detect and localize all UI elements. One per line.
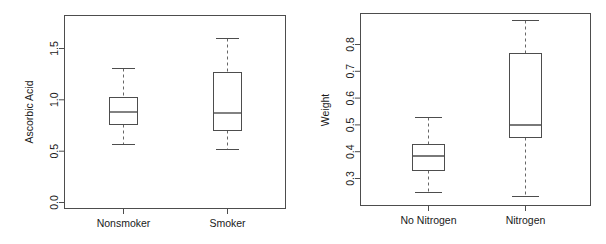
boxplot-no-nitrogen	[413, 118, 445, 193]
box-iqr	[413, 145, 445, 171]
ascorbic-acid-chart: 1.5 1.0 0.5 0.0 Ascorbic Acid	[0, 0, 303, 244]
x-label-no-nitrogen: No Nitrogen	[400, 214, 456, 226]
x-label-nonsmoker: Nonsmoker	[97, 217, 151, 229]
y-tick-label-0.8: 0.8	[344, 37, 356, 52]
box-iqr	[110, 98, 138, 125]
y-tick-label-0.6: 0.6	[344, 91, 356, 106]
y-tick-label-1.5: 1.5	[48, 41, 60, 56]
weight-chart: 0.8 0.7 0.6 0.5 0.4 0.3 Weight	[303, 0, 606, 244]
box-iqr	[214, 73, 242, 131]
boxplot-figure-row: 1.5 1.0 0.5 0.0 Ascorbic Acid	[0, 0, 606, 244]
y-tick-label-0.3: 0.3	[344, 171, 356, 186]
x-label-smoker: Smoker	[209, 217, 246, 229]
y-axis-title: Ascorbic Acid	[23, 80, 35, 143]
y-axis-title: Weight	[319, 94, 331, 127]
y-tick-label-0.5: 0.5	[344, 117, 356, 132]
ascorbic-acid-panel: 1.5 1.0 0.5 0.0 Ascorbic Acid	[0, 0, 303, 244]
plot-frame	[65, 16, 286, 209]
y-tick-label-1.0: 1.0	[48, 92, 60, 107]
y-tick-label-0.7: 0.7	[344, 64, 356, 79]
weight-panel: 0.8 0.7 0.6 0.5 0.4 0.3 Weight	[303, 0, 606, 244]
y-tick-label-0.4: 0.4	[344, 144, 356, 159]
x-label-nitrogen: Nitrogen	[506, 214, 546, 226]
boxplot-nitrogen	[510, 21, 542, 197]
plot-frame	[361, 14, 591, 206]
y-tick-label-0.5: 0.5	[48, 144, 60, 159]
boxplot-smoker	[214, 39, 242, 150]
boxplot-nonsmoker	[110, 69, 138, 145]
y-tick-label-0.0: 0.0	[48, 195, 60, 210]
